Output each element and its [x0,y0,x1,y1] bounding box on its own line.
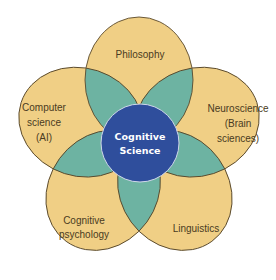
label-cognitive-psychology-line2: psychology [59,229,109,240]
center-label-line2: Science [119,145,160,156]
label-computer-science-line1: Computer [22,102,67,113]
label-philosophy: Philosophy [116,49,165,60]
label-neuroscience-line1: Neuroscience [207,103,269,114]
center-label-line1: Cognitive [115,131,166,142]
label-cognitive-psychology-line1: Cognitive [63,215,105,226]
label-neuroscience-line2: (Brain [225,118,252,129]
center-circle [101,104,179,182]
label-linguistics: Linguistics [173,223,220,234]
label-neuroscience-line3: sciences) [217,133,259,144]
label-computer-science-line3: (AI) [36,132,52,143]
label-computer-science-line2: science [27,117,61,128]
cognitive-science-venn-diagram: Cognitive Science Philosophy Neuroscienc… [0,0,276,280]
